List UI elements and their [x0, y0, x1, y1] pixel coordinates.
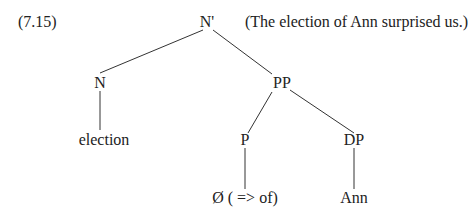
gloss: (The election of Ann surprised us.) [245, 14, 468, 30]
node-n: N [94, 75, 106, 91]
edge-root-n [100, 30, 203, 73]
tree-edges [0, 0, 469, 213]
leaf-null-p: Ø ( => of) [212, 190, 278, 206]
edge-pp-dp [290, 90, 354, 133]
node-dp: DP [344, 132, 364, 148]
edge-root-pp [213, 30, 272, 74]
node-root: N' [200, 14, 214, 30]
example-number: (7.15) [18, 14, 57, 30]
leaf-election: election [79, 132, 130, 148]
node-pp: PP [273, 75, 291, 91]
leaf-ann: Ann [340, 190, 368, 206]
node-p: P [241, 132, 250, 148]
edge-pp-p [248, 92, 272, 133]
